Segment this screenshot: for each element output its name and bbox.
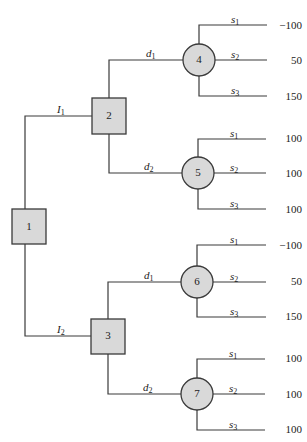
branch-4-s1 xyxy=(199,25,267,44)
state-label-5-s2: s2 xyxy=(230,162,238,175)
branch-6-s1 xyxy=(197,245,266,266)
branch-5-s1 xyxy=(198,139,266,157)
edge-I1 xyxy=(25,116,92,209)
payoff-7-s3: 100 xyxy=(262,424,302,435)
decision-tree-diagram: 1 2 3 4 5 6 7 I1 I2 d1 d2 d1 d2 s1 s2 s3… xyxy=(0,0,307,442)
payoff-7-s2: 100 xyxy=(262,389,302,400)
state-label-4-s2: s2 xyxy=(231,49,239,62)
state-label-6-s3: s3 xyxy=(230,306,238,319)
payoff-6-s2: 50 xyxy=(262,276,302,287)
edge-3-d1 xyxy=(108,282,181,319)
state-label-4-s3: s3 xyxy=(231,85,239,98)
payoff-5-s1: 100 xyxy=(262,133,302,144)
chance-node-4-label: 4 xyxy=(184,54,214,65)
edge-2-d1 xyxy=(109,60,183,98)
payoff-7-s1: 100 xyxy=(262,353,302,364)
decision-node-2-label: 2 xyxy=(94,110,124,121)
chance-node-7-label: 7 xyxy=(182,388,212,399)
payoff-6-s3: 150 xyxy=(262,311,302,322)
state-label-7-s1: s1 xyxy=(229,348,237,361)
payoff-5-s2: 100 xyxy=(262,168,302,179)
edge-label-d2-top: d2 xyxy=(144,161,154,174)
payoff-4-s3: 150 xyxy=(262,91,302,102)
edge-label-d1-bottom: d1 xyxy=(144,270,154,283)
payoff-5-s3: 100 xyxy=(262,204,302,215)
state-label-7-s3: s3 xyxy=(229,419,237,432)
state-label-7-s2: s2 xyxy=(229,383,237,396)
chance-node-6-label: 6 xyxy=(182,276,212,287)
state-label-6-s2: s2 xyxy=(230,271,238,284)
state-label-5-s3: s3 xyxy=(230,198,238,211)
chance-node-5-label: 5 xyxy=(183,167,213,178)
edge-label-d1-top: d1 xyxy=(146,48,156,61)
state-label-5-s1: s1 xyxy=(230,128,238,141)
state-label-4-s1: s1 xyxy=(231,14,239,27)
branch-7-s1 xyxy=(197,359,265,378)
payoff-4-s1: −100 xyxy=(262,20,302,31)
edge-label-I2: I2 xyxy=(57,324,65,337)
edge-label-d2-bottom: d2 xyxy=(143,382,153,395)
state-label-6-s1: s1 xyxy=(230,234,238,247)
edge-label-I1: I1 xyxy=(57,104,65,117)
payoff-4-s2: 50 xyxy=(262,55,302,66)
decision-node-3-label: 3 xyxy=(93,330,123,341)
tree-lines xyxy=(0,0,307,442)
decision-node-1-label: 1 xyxy=(14,221,44,232)
payoff-6-s1: −100 xyxy=(262,240,302,251)
